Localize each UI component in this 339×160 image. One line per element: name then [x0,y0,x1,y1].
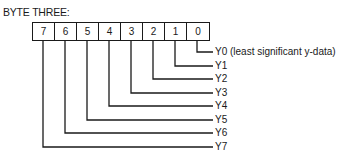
label-y1: Y1 [215,61,227,71]
label-y7: Y7 [215,142,227,152]
label-y4: Y4 [215,101,227,111]
connector-bit-2 [153,41,213,79]
connector-bit-7 [43,41,213,147]
label-y0: Y0 (least significant y-data) [215,47,336,57]
connector-bit-5 [87,41,213,120]
connector-bit-0 [197,41,213,52]
label-y6: Y6 [215,128,227,138]
label-y2: Y2 [215,74,227,84]
connector-bit-1 [175,41,213,66]
connector-bit-3 [131,41,213,93]
label-y5: Y5 [215,115,227,125]
label-y3: Y3 [215,88,227,98]
connector-lines [0,0,339,160]
